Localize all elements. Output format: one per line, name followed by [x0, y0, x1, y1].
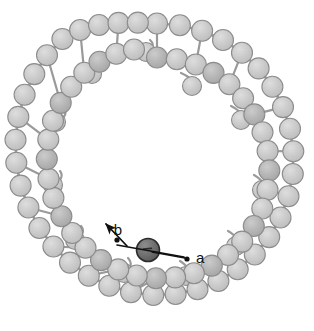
endpoint-dot-a — [184, 256, 189, 261]
bead-texture — [186, 55, 205, 74]
bead-texture — [284, 142, 303, 161]
bead-texture — [273, 98, 292, 117]
bead-texture — [127, 266, 146, 285]
bead-texture — [107, 44, 126, 63]
bead-texture — [30, 218, 49, 237]
bead-texture — [213, 30, 232, 49]
bead-texture — [89, 15, 108, 34]
bead-texture — [146, 269, 165, 288]
bead-texture — [39, 130, 58, 149]
bead-texture — [167, 50, 186, 69]
bead-texture — [193, 21, 212, 40]
bead-texture — [109, 13, 128, 32]
bead-texture — [7, 153, 26, 172]
endpoint-dot-b — [114, 237, 119, 242]
figure-container: a b — [0, 0, 314, 331]
bead-texture — [52, 207, 71, 226]
bead-texture — [258, 180, 277, 199]
bead-texture — [166, 268, 185, 287]
highlight-tick — [144, 248, 152, 249]
bead-texture — [25, 65, 44, 84]
bead-texture — [271, 208, 290, 227]
bead-texture — [37, 46, 56, 65]
bead-texture — [183, 77, 200, 94]
bead-texture — [283, 164, 302, 183]
bead-texture — [263, 77, 282, 96]
bead-texture — [249, 59, 268, 78]
bead-texture — [202, 256, 221, 275]
bead-texture — [147, 48, 166, 67]
label-a: a — [196, 249, 205, 266]
bead-texture — [11, 176, 30, 195]
ring-filament-diagram: a b — [0, 0, 314, 331]
bead-texture — [44, 237, 63, 256]
label-b: b — [114, 221, 122, 238]
bead-texture — [147, 14, 166, 33]
bead-texture — [245, 105, 264, 124]
bead-texture — [6, 130, 25, 149]
bead-texture — [170, 16, 189, 35]
bead-texture — [53, 29, 72, 48]
bead-texture — [280, 119, 299, 138]
bead-texture — [184, 264, 203, 283]
bead-texture — [232, 43, 251, 62]
bead-texture — [260, 161, 279, 180]
bead-texture — [60, 253, 79, 272]
bead-texture — [71, 20, 90, 39]
bead-texture — [43, 111, 62, 130]
bead-texture — [19, 198, 38, 217]
bead-texture — [15, 85, 34, 104]
bead-texture — [258, 141, 277, 160]
bead-texture — [9, 107, 28, 126]
bead-texture — [253, 123, 272, 142]
bead-texture — [279, 187, 298, 206]
bead-texture — [44, 188, 63, 207]
bead-texture — [128, 13, 147, 32]
bead-texture — [39, 169, 58, 188]
bead-texture — [37, 150, 56, 169]
bead-texture — [124, 40, 143, 59]
